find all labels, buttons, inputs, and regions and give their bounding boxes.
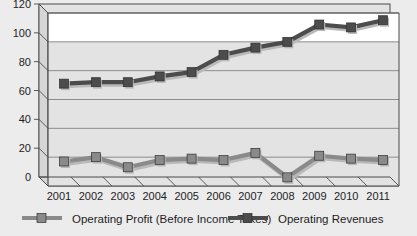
y-tick-label: 40	[19, 113, 31, 125]
chart-canvas: 020406080100120 200120022003200420052006…	[0, 0, 417, 236]
legend-swatch-marker	[243, 214, 252, 223]
legend-label: Operating Revenues	[278, 213, 384, 225]
data-point-marker	[347, 154, 356, 163]
data-point-marker	[251, 148, 260, 157]
data-point-marker	[155, 156, 164, 165]
data-point-marker	[379, 156, 388, 165]
x-tick-label: 2010	[334, 190, 358, 202]
data-point-marker	[347, 23, 356, 32]
x-tick-label: 2009	[302, 190, 326, 202]
x-tick-label: 2004	[142, 190, 166, 202]
x-tick-label: 2003	[111, 190, 135, 202]
chart-legend: Operating Profit (Before Income Taxes)Op…	[22, 213, 384, 225]
data-point-marker	[283, 173, 292, 182]
data-point-marker	[315, 151, 324, 160]
x-tick-label: 2005	[174, 190, 198, 202]
y-tick-label: 0	[25, 171, 31, 183]
x-tick-label: 2007	[238, 190, 262, 202]
data-point-marker	[91, 153, 100, 162]
x-tick-label: 2001	[47, 190, 71, 202]
x-tick-label: 2006	[206, 190, 230, 202]
operating-results-line-chart: 020406080100120 200120022003200420052006…	[0, 0, 417, 236]
data-point-marker	[155, 72, 164, 81]
data-point-marker	[123, 163, 132, 172]
data-point-marker	[379, 16, 388, 25]
data-point-marker	[187, 68, 196, 77]
legend-item-2[interactable]: Operating Revenues	[228, 213, 384, 225]
legend-swatch-marker	[37, 214, 46, 223]
data-point-marker	[59, 157, 68, 166]
data-point-marker	[315, 20, 324, 29]
x-tick-label: 2011	[366, 190, 390, 202]
data-point-marker	[283, 37, 292, 46]
y-tick-label: 60	[19, 85, 31, 97]
data-point-marker	[219, 156, 228, 165]
y-tick-label: 20	[19, 142, 31, 154]
x-tick-label: 2002	[79, 190, 103, 202]
data-point-marker	[123, 78, 132, 87]
data-point-marker	[219, 50, 228, 59]
x-tick-label: 2008	[270, 190, 294, 202]
x-axis-tick-labels: 2001200220032004200520062007200820092010…	[47, 190, 390, 202]
data-point-marker	[59, 79, 68, 88]
y-tick-label: 80	[19, 56, 31, 68]
y-tick-label: 100	[13, 27, 31, 39]
data-point-marker	[91, 78, 100, 87]
data-point-marker	[187, 154, 196, 163]
y-tick-label: 120	[13, 0, 31, 10]
data-point-marker	[251, 43, 260, 52]
